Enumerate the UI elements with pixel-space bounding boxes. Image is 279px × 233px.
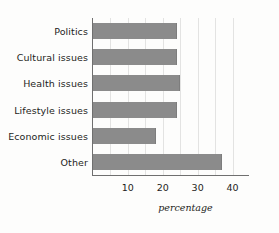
gridline: [145, 18, 146, 175]
gridline: [233, 18, 234, 175]
x-axis-line: [92, 175, 249, 176]
x-axis-title-text: percentage: [158, 202, 213, 213]
gridline: [163, 18, 164, 175]
gridline: [110, 18, 111, 175]
gridline: [128, 18, 129, 175]
bar-cultural-issues: [93, 49, 177, 65]
bar-other: [93, 154, 222, 170]
x-tick-label: 40: [220, 182, 246, 193]
category-label: Health issues: [0, 78, 88, 89]
y-axis-line: [92, 18, 93, 176]
x-tick-label: 20: [150, 182, 176, 193]
category-label: Lifestyle issues: [0, 105, 88, 116]
bar-chart: PoliticsCultural issuesHealth issuesLife…: [0, 0, 279, 233]
bar-economic-issues: [93, 128, 156, 144]
bar-fill: [93, 23, 177, 39]
x-tick-label: 30: [185, 182, 211, 193]
bar-fill: [93, 49, 177, 65]
gridline: [215, 18, 216, 175]
category-label: Other: [0, 157, 88, 168]
bar-fill: [93, 102, 177, 118]
category-label: Economic issues: [0, 131, 88, 142]
gridline: [180, 18, 181, 175]
bar-fill: [93, 128, 156, 144]
gridline: [198, 18, 199, 175]
x-axis-title: percentage: [0, 202, 279, 213]
bar-politics: [93, 23, 177, 39]
x-tick-label: 10: [115, 182, 141, 193]
bar-lifestyle-issues: [93, 102, 177, 118]
category-label: Politics: [0, 26, 88, 37]
plot-area: [93, 18, 243, 175]
category-label: Cultural issues: [0, 52, 88, 63]
bar-fill: [93, 75, 180, 91]
bar-health-issues: [93, 75, 180, 91]
bar-fill: [93, 154, 222, 170]
